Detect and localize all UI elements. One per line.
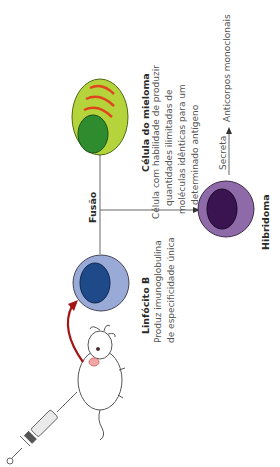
arrowhead-icon [226,127,232,134]
transfer-arrow [68,306,83,362]
lymphocyte-desc-line: de especificidade única [165,237,178,343]
fusion-label: Fusão [87,192,98,223]
myeloma-desc-line: quantidades ilimitadas de [163,65,176,219]
hybridoma-cell [198,181,254,237]
lymphocyte-b-cell [73,255,129,311]
lymphocyte-description: Produz imunoglobulina de especificidade … [152,237,178,343]
syringe-icon [7,392,77,464]
diagram-canvas [0,0,280,467]
hybridoma-title: Hibridoma [260,194,271,250]
lymphocyte-title: Linfócito B [140,277,151,334]
lymphocyte-desc-line: Produz imunoglobulina [152,237,165,343]
myeloma-desc-line: determinado antígeno [189,65,202,219]
monoclonal-antibodies-label: Anticorpos monoclonais [222,14,232,122]
mouse-icon [78,325,125,440]
myeloma-cell [72,79,128,155]
secretes-label: Secreta [218,136,228,170]
myeloma-description: Célula com habilidade de produzir quanti… [150,65,202,219]
myeloma-desc-line: moléculas idênticas para um [176,65,189,219]
myeloma-desc-line: Célula com habilidade de produzir [150,65,163,219]
